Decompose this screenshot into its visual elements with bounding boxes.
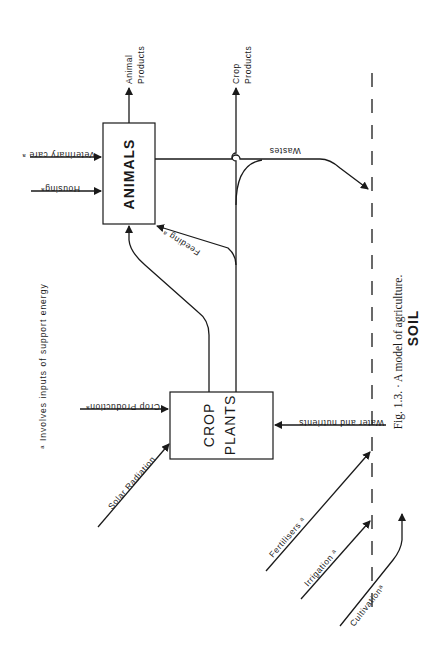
soil-label: SOIL bbox=[405, 310, 421, 347]
solar-radiation-label: Solar Radiation bbox=[106, 454, 158, 511]
animals-node: ANIMALS bbox=[103, 123, 155, 224]
animals-label: ANIMALS bbox=[121, 139, 137, 210]
figure-caption: Fig. 1.3. · A model of agriculture. bbox=[392, 275, 405, 430]
footnote-support-energy: ᵃ Involves inputs of support energy bbox=[38, 283, 48, 448]
crop-plants-label-line1: CROP bbox=[201, 403, 217, 447]
feeding-label: Feeding ᵃ bbox=[161, 227, 202, 258]
cultivation-arrow bbox=[340, 514, 402, 626]
fertilisers-arrow bbox=[266, 452, 370, 571]
veterinary-care-label: Veterinary care ᵃ bbox=[22, 150, 95, 160]
housing-label: Housingᵃ bbox=[41, 184, 80, 194]
crop-plants-label-line2: PLANTS bbox=[222, 395, 238, 455]
animal-products-label-2: Products bbox=[136, 46, 146, 84]
crop-production-label: Crop Productionᵃ bbox=[86, 402, 160, 412]
wastes-label: Wastes bbox=[269, 146, 301, 156]
cultivation-label: Cultivationᵃ bbox=[348, 582, 387, 628]
crop-products-label-2: Products bbox=[243, 46, 253, 84]
crop-plants-node: CROP PLANTS bbox=[170, 392, 273, 459]
irrigation-arrow bbox=[301, 521, 370, 599]
fertilisers-label: Fertilisers ᵃ bbox=[267, 515, 308, 560]
agriculture-model-diagram: ANIMALS CROP PLANTS Animal Products Crop… bbox=[0, 0, 444, 652]
irrigation-label: Irrigation ᵃ bbox=[302, 547, 340, 588]
water-nutrients-label: Water and nutrients bbox=[299, 418, 384, 428]
crop-wastes-curve bbox=[236, 160, 262, 205]
animal-products-label-1: Animal bbox=[124, 54, 134, 84]
crop-products-label-1: Crop bbox=[231, 63, 241, 84]
crop-products-arrow bbox=[232, 88, 236, 392]
